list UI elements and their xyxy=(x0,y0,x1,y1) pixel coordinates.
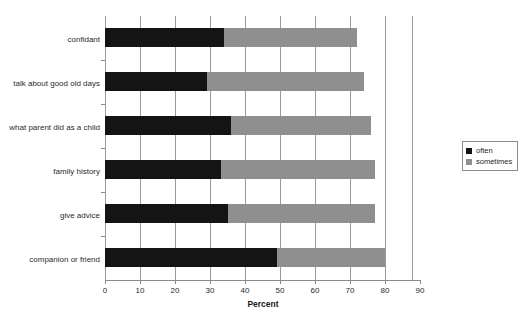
plot-area xyxy=(105,16,413,280)
x-tick-60 xyxy=(315,280,316,284)
stacked-bar-chart: confidant talk about good old days what … xyxy=(0,0,526,323)
x-axis-tick-label-20: 20 xyxy=(155,286,195,295)
y-axis-label-confidant: confidant xyxy=(4,35,100,44)
y-axis-label-talk-good-old-days: talk about good old days xyxy=(4,79,100,88)
x-axis-tick-label-40: 40 xyxy=(225,286,265,295)
bar-segment-sometimes-family-history xyxy=(221,160,375,179)
x-axis-tick-label-30: 30 xyxy=(190,286,230,295)
x-tick-40 xyxy=(245,280,246,284)
bar-segment-often-family-history xyxy=(105,160,221,179)
legend-swatch-sometimes-icon xyxy=(466,159,472,165)
legend-item-sometimes: sometimes xyxy=(466,156,512,167)
bar-segment-often-talk-good-old-days xyxy=(105,72,207,91)
y-tick-2 xyxy=(101,148,105,149)
x-tick-0 xyxy=(105,280,106,284)
bar-row-what-parent-did xyxy=(105,116,371,135)
bar-segment-sometimes-what-parent-did xyxy=(231,116,371,135)
x-tick-80 xyxy=(385,280,386,284)
x-axis-tick-label-0: 0 xyxy=(85,286,125,295)
bar-segment-often-give-advice xyxy=(105,204,228,223)
y-tick-1 xyxy=(101,104,105,105)
x-tick-70 xyxy=(350,280,351,284)
bar-segment-sometimes-give-advice xyxy=(228,204,375,223)
x-tick-20 xyxy=(175,280,176,284)
x-axis-tick-label-90: 90 xyxy=(400,286,440,295)
x-axis-tick-label-80: 80 xyxy=(365,286,405,295)
bar-row-confidant xyxy=(105,28,357,47)
bar-segment-often-confidant xyxy=(105,28,224,47)
y-axis-label-family-history: family history xyxy=(4,167,100,176)
legend-swatch-often-icon xyxy=(466,148,472,154)
x-axis-tick-label-50: 50 xyxy=(260,286,300,295)
y-axis-label-what-parent-did: what parent did as a child xyxy=(4,123,100,132)
bar-row-give-advice xyxy=(105,204,375,223)
x-tick-50 xyxy=(280,280,281,284)
bar-row-talk-good-old-days xyxy=(105,72,364,91)
bar-segment-sometimes-talk-good-old-days xyxy=(207,72,365,91)
y-tick-4 xyxy=(101,236,105,237)
legend-label-sometimes: sometimes xyxy=(476,156,512,167)
bar-segment-sometimes-confidant xyxy=(224,28,357,47)
y-axis-label-companion-or-friend: companion or friend xyxy=(4,255,100,264)
bar-segment-often-companion-or-friend xyxy=(105,248,277,267)
x-tick-30 xyxy=(210,280,211,284)
x-axis-tick-label-10: 10 xyxy=(120,286,160,295)
x-tick-10 xyxy=(140,280,141,284)
chart-legend: often sometimes xyxy=(462,141,518,171)
x-tick-90 xyxy=(420,280,421,284)
x-axis-tick-label-70: 70 xyxy=(330,286,370,295)
bar-row-family-history xyxy=(105,160,375,179)
bar-row-companion-or-friend xyxy=(105,248,385,267)
y-axis-label-give-advice: give advice xyxy=(4,211,100,220)
legend-item-often: often xyxy=(466,145,512,156)
bar-segment-sometimes-companion-or-friend xyxy=(277,248,386,267)
legend-label-often: often xyxy=(476,145,493,156)
x-axis-title: Percent xyxy=(105,299,421,309)
y-tick-0 xyxy=(101,60,105,61)
x-axis-tick-label-60: 60 xyxy=(295,286,335,295)
bar-segment-often-what-parent-did xyxy=(105,116,231,135)
y-tick-3 xyxy=(101,192,105,193)
x-axis-line xyxy=(105,280,421,281)
